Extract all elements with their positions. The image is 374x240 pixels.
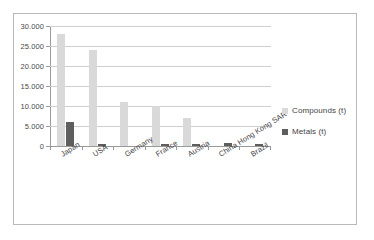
- y-tick: [46, 66, 50, 67]
- bar-compounds: [183, 118, 191, 146]
- x-tick: [113, 146, 114, 150]
- y-tick-label: 0: [40, 142, 44, 151]
- y-tick-label: 20.000: [20, 62, 44, 71]
- legend-item-compounds: Compounds (t): [282, 106, 346, 115]
- bar-compounds: [120, 102, 128, 146]
- legend-swatch-metals-icon: [282, 129, 288, 135]
- y-tick: [46, 26, 50, 27]
- legend-item-metals: Metals (t): [282, 127, 346, 136]
- y-tick-label: 5.000: [25, 122, 44, 131]
- x-tick: [50, 146, 51, 150]
- y-tick-label: 25.000: [20, 42, 44, 51]
- gridline: [50, 46, 271, 47]
- legend-swatch-compounds-icon: [282, 108, 288, 114]
- gridline: [50, 66, 271, 67]
- y-tick-label: 10.000: [20, 102, 44, 111]
- y-tick: [46, 86, 50, 87]
- bar-compounds: [57, 34, 65, 146]
- y-tick: [46, 106, 50, 107]
- legend-label-compounds: Compounds (t): [292, 106, 346, 115]
- x-tick: [82, 146, 83, 150]
- gridline: [50, 126, 271, 127]
- x-category-label: Brazil: [249, 141, 270, 159]
- gridline: [50, 86, 271, 87]
- chart-frame: 05.00010.00015.00020.00025.00030.000 Jap…: [13, 13, 357, 225]
- y-tick-label: 30.000: [20, 22, 44, 31]
- gridline: [50, 106, 271, 107]
- chart-legend: Compounds (t) Metals (t): [282, 106, 346, 148]
- y-tick: [46, 126, 50, 127]
- legend-label-metals: Metals (t): [292, 127, 326, 136]
- bar-compounds: [89, 50, 97, 146]
- y-tick-label: 15.000: [20, 82, 44, 91]
- y-tick: [46, 46, 50, 47]
- plot-area: 05.00010.00015.00020.00025.00030.000 Jap…: [50, 26, 271, 146]
- gridline: [50, 26, 271, 27]
